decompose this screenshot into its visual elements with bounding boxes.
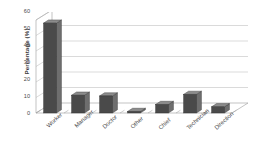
y-tick-label-40: 40: [16, 43, 30, 49]
y-tick-label-20: 20: [16, 77, 30, 83]
y-axis-tick-labels: 60 50 40 30 20 10 0: [16, 0, 30, 159]
bar-manager: [72, 92, 90, 113]
bar-doctor: [100, 93, 118, 113]
bar-chart: Percentage (%) 60 50 40 30 20 10 0 Worke…: [0, 0, 258, 159]
y-tick-label-0: 0: [16, 111, 30, 117]
y-tick-label-60: 60: [16, 9, 30, 15]
plot-area: [32, 12, 254, 124]
y-tick-label-30: 30: [16, 60, 30, 66]
plot-svg: [32, 12, 254, 124]
y-axis-top-connector: [36, 12, 52, 20]
y-tick-label-50: 50: [16, 26, 30, 32]
bar-direction: [212, 104, 230, 113]
bar-chief: [156, 101, 174, 113]
bar-worker: [44, 20, 62, 113]
bar-technician: [184, 91, 202, 113]
y-tick-label-10: 10: [16, 94, 30, 100]
